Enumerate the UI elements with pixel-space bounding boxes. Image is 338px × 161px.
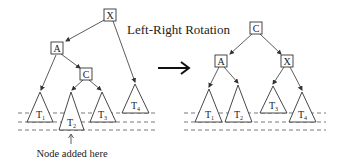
- edge-x-to-t4: [290, 67, 302, 90]
- subtree-t3: T3: [90, 92, 116, 122]
- node-added-pointer: Node added here: [36, 134, 107, 159]
- edge-a-to-t2: [224, 67, 238, 83]
- edge-c-to-t2: [72, 80, 83, 90]
- edge-a-to-t1: [41, 55, 56, 90]
- edge-c-to-a: [230, 34, 252, 54]
- svg-text:C: C: [253, 23, 260, 34]
- subtree-t3: T3: [260, 86, 287, 113]
- edge-c-to-x: [260, 34, 281, 54]
- diagram-canvas: Left-Right Rotation X A C: [0, 0, 338, 161]
- svg-text:X: X: [283, 56, 291, 67]
- subtree-t4: T4: [289, 92, 316, 122]
- subtree-t4: T4: [122, 84, 149, 113]
- right-arrow-icon: [158, 62, 189, 74]
- node-a: A: [215, 55, 227, 67]
- node-c: C: [80, 68, 92, 80]
- subtree-t2: T2: [59, 92, 84, 130]
- svg-text:X: X: [106, 10, 114, 21]
- edge-c-to-t3: [89, 80, 101, 90]
- node-c: C: [250, 22, 262, 34]
- edge-x-to-t3: [273, 67, 284, 84]
- svg-text:A: A: [53, 43, 61, 54]
- svg-text:A: A: [217, 56, 225, 67]
- edge-x-to-a: [66, 19, 106, 41]
- node-a: A: [51, 42, 63, 54]
- svg-text:C: C: [83, 69, 90, 80]
- subtree-t1: T1: [27, 92, 53, 122]
- after-tree: C A X T1 T2 T3 T4: [184, 22, 326, 130]
- subtree-t1: T1: [195, 89, 222, 122]
- node-x: X: [281, 55, 293, 67]
- subtree-t2: T2: [225, 85, 252, 122]
- diagram-title: Left-Right Rotation: [127, 22, 230, 37]
- edge-a-to-t1: [209, 67, 219, 87]
- node-x: X: [104, 9, 116, 21]
- edge-a-to-c: [61, 54, 80, 68]
- node-added-caption: Node added here: [36, 148, 107, 159]
